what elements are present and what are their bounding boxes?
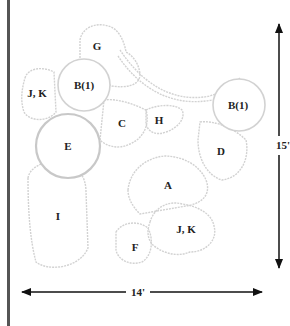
plant-label-b1-left: B(1) (74, 79, 94, 91)
plant-label-a: A (164, 179, 172, 191)
plant-label-jk-left: J, K (27, 87, 47, 99)
plant-label-f: F (132, 241, 139, 253)
plant-label-g: G (93, 40, 102, 52)
plant-label-h: H (155, 114, 164, 126)
height-dimension-label: 15' (274, 139, 290, 151)
plant-label-jk-right: J, K (176, 223, 196, 235)
plant-outline-h (146, 106, 183, 134)
plant-label-c: C (118, 117, 126, 129)
width-dimension-label: 14' (129, 286, 147, 298)
plant-label-d: D (217, 145, 225, 157)
plant-label-b1-right: B(1) (228, 99, 248, 111)
planting-plan-outlines (0, 0, 290, 326)
plant-label-i: I (56, 210, 60, 222)
plant-label-e: E (64, 140, 71, 152)
